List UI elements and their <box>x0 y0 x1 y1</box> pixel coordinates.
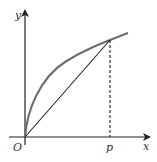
curve <box>25 33 128 137</box>
function-diagram: y x O p <box>0 0 157 162</box>
x-axis-label: x <box>143 140 150 153</box>
origin-label: O <box>13 141 22 154</box>
point-p-label: p <box>106 141 113 154</box>
y-axis-label: y <box>14 9 22 22</box>
chord-line <box>25 40 110 137</box>
